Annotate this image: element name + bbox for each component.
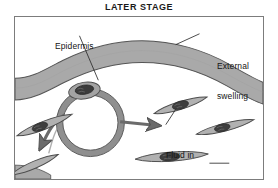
figure-title: LATER STAGE bbox=[0, 2, 278, 12]
illustration-frame: Epidermis External swelling Fluid in int… bbox=[14, 16, 264, 180]
label-fluid-interstitial-space: Fluid in interstitial space bbox=[166, 130, 203, 180]
label-epidermis: Epidermis bbox=[55, 41, 94, 51]
label-external-swelling: External swelling bbox=[217, 41, 249, 121]
fluid-outflow-arrow-right bbox=[120, 122, 160, 126]
label-fluid-line1: Fluid in bbox=[166, 150, 203, 160]
label-external-swelling-line1: External bbox=[217, 61, 249, 71]
label-slight-swelling: Slight swelling bbox=[230, 170, 261, 180]
leader-line-external-swelling bbox=[176, 34, 200, 45]
label-external-swelling-line2: swelling bbox=[217, 91, 249, 101]
spindle-cell-top-right bbox=[153, 94, 209, 117]
figure-container: LATER STAGE bbox=[0, 0, 278, 188]
